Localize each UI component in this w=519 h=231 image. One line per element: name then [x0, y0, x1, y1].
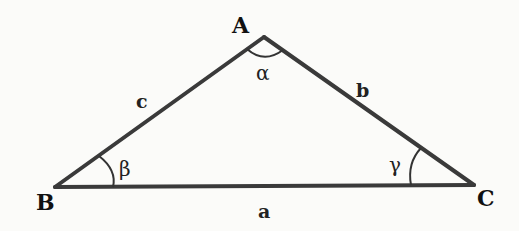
angle-gamma-arc	[410, 148, 421, 185]
side-a-line	[55, 185, 474, 187]
triangle-diagram: A B C a b c α β γ	[0, 0, 519, 231]
side-label-b: b	[356, 79, 369, 101]
angle-alpha-arc	[247, 49, 283, 57]
angle-label-gamma: γ	[389, 153, 401, 177]
side-label-c: c	[136, 90, 148, 112]
vertex-label-a: A	[231, 12, 250, 38]
side-c-line	[55, 37, 264, 187]
side-b-line	[264, 37, 474, 185]
angle-beta-arc	[99, 156, 114, 187]
vertex-label-b: B	[36, 189, 55, 215]
angle-label-beta: β	[119, 157, 131, 181]
vertex-label-c: C	[477, 185, 495, 211]
angle-label-alpha: α	[256, 61, 270, 85]
side-label-a: a	[258, 200, 270, 222]
